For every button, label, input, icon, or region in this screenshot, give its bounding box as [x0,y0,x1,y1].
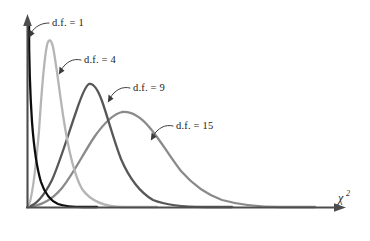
y-axis-arrowhead-icon [23,14,32,26]
x-axis-label-exponent-glyph: 2 [346,189,350,198]
leader-arrowhead-df-9 [108,94,114,102]
chart-canvas: d.f. = 1 d.f. = 4 d.f. = 9 d.f. = 15 χ 2 [0,0,370,241]
curve-df-4 [28,40,157,207]
leader-line-df-1 [31,23,49,33]
x-axis-label-base-glyph: χ [337,191,344,205]
annotation-label-df-1: d.f. = 1 [52,17,84,28]
leader-arrowhead-df-4 [59,66,65,74]
annotation-label-df-9: d.f. = 9 [133,82,165,93]
x-axis-label: χ 2 [337,189,350,205]
axes-group [23,14,346,212]
leader-line-df-9 [110,87,130,98]
leader-line-df-4 [61,59,81,70]
curve-group [28,23,315,207]
chi-squared-distribution-figure: d.f. = 1 d.f. = 4 d.f. = 9 d.f. = 15 χ 2 [0,0,370,241]
annotation-label-df-15: d.f. = 15 [176,120,213,131]
annotation-label-df-4: d.f. = 4 [84,54,117,65]
